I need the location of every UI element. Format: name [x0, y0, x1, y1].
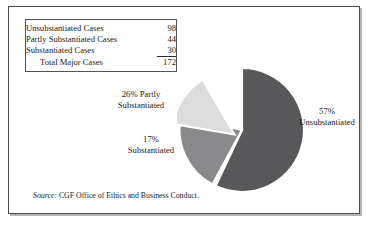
callout-partly-line2: Substantiated	[95, 100, 187, 111]
legend-table-box: Unsubstantiated Cases 98 Partly Substant…	[25, 19, 177, 72]
legend-label-substantiated: Substantiated Cases	[26, 45, 157, 57]
callout-substantiated-line2: Substantiated	[105, 145, 197, 156]
legend-value-partly-substantiated: 44	[157, 34, 176, 45]
table-row: Substantiated Cases 30	[26, 45, 176, 57]
table-row: Unsubstantiated Cases 98	[26, 23, 176, 34]
legend-label-partly-substantiated: Partly Substantiated Cases	[26, 34, 157, 45]
legend-label-unsubstantiated: Unsubstantiated Cases	[26, 23, 157, 34]
legend-label-total: Total Major Cases	[26, 57, 157, 69]
legend-table: Unsubstantiated Cases 98 Partly Substant…	[26, 23, 176, 68]
table-row: Partly Substantiated Cases 44	[26, 34, 176, 45]
legend-value-total: 172	[157, 57, 176, 69]
source-note: Source: CGF Office of Ethics and Busines…	[33, 191, 199, 200]
pie-chart	[177, 65, 307, 195]
callout-unsubstantiated: 57% Unsubstantiated	[283, 106, 371, 127]
callout-partly-line1: 26% Partly	[95, 89, 187, 100]
figure-frame: Unsubstantiated Cases 98 Partly Substant…	[8, 6, 360, 214]
pie-chart-svg	[177, 65, 307, 195]
source-label: Source:	[33, 191, 57, 200]
callout-unsubstantiated-line2: Unsubstantiated	[283, 117, 371, 128]
callout-substantiated-line1: 17%	[105, 134, 197, 145]
callout-partly-substantiated: 26% Partly Substantiated	[95, 89, 187, 110]
table-row-total: Total Major Cases 172	[26, 57, 176, 69]
legend-value-substantiated: 30	[157, 45, 176, 57]
callout-substantiated: 17% Substantiated	[105, 134, 197, 155]
source-text: CGF Office of Ethics and Business Conduc…	[59, 191, 199, 200]
legend-value-unsubstantiated: 98	[157, 23, 176, 34]
figure-container: Unsubstantiated Cases 98 Partly Substant…	[0, 0, 371, 227]
callout-unsubstantiated-line1: 57%	[283, 106, 371, 117]
